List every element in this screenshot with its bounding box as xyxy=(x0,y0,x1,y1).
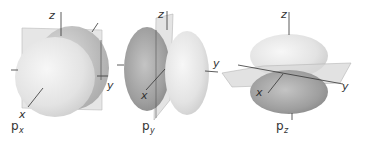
pz-x-label: x xyxy=(255,86,263,99)
pz-orbital: z y x p z xyxy=(222,8,351,135)
px-x-label: x xyxy=(18,108,26,121)
py-y-label: y xyxy=(212,57,220,70)
pz-caption-sub: z xyxy=(283,126,289,135)
pz-y-label: y xyxy=(341,80,349,93)
px-orbital: z y x p x xyxy=(11,9,114,135)
p-orbitals-figure: z y x p x z y x p y z y x xyxy=(0,0,365,142)
py-right-lobe xyxy=(165,31,209,115)
px-caption-sub: x xyxy=(18,126,24,135)
py-caption-sub: y xyxy=(149,126,155,135)
px-y-label: y xyxy=(106,79,114,92)
pz-z-label: z xyxy=(280,8,287,21)
px-caption: p xyxy=(11,119,19,133)
py-z-label: z xyxy=(157,8,164,21)
px-front-lobe xyxy=(15,37,95,117)
py-orbital: z y x p y xyxy=(117,8,220,135)
py-caption: p xyxy=(142,119,150,133)
pz-caption: p xyxy=(276,119,284,133)
px-z-label: z xyxy=(48,9,55,22)
py-x-label: x xyxy=(140,89,148,102)
